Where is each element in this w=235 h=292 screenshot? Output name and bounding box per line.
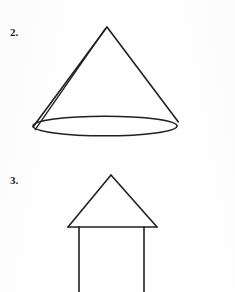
figures-canvas — [0, 0, 235, 292]
figure-2-cone — [33, 27, 178, 136]
figure-2-number-label: 2. — [10, 27, 18, 38]
figure-3-number-label: 3. — [10, 175, 18, 186]
cone-back-slant-line — [35, 29, 105, 130]
figure-3-triangle-on-lines — [68, 175, 157, 292]
cone-right-slant-line — [107, 27, 178, 122]
triangle-left-slant-line — [68, 175, 111, 227]
cone-base-ellipse — [33, 116, 177, 136]
worksheet-page: 2. 3. — [0, 0, 235, 292]
triangle-right-slant-line — [111, 175, 157, 227]
